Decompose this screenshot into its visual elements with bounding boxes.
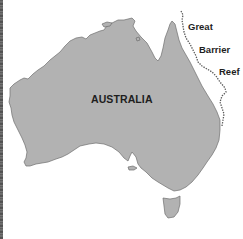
map-graphic (0, 0, 243, 239)
reef-label-great: Great (188, 22, 213, 32)
kangaroo-island (128, 166, 137, 170)
reef-label-barrier: Barrier (199, 45, 230, 55)
tasmania (163, 196, 180, 218)
australia-map: AUSTRALIA Great Barrier Reef (0, 0, 243, 239)
reef-label-reef: Reef (219, 67, 240, 77)
groote-eylandt (136, 37, 140, 41)
country-label: AUSTRALIA (91, 94, 153, 105)
